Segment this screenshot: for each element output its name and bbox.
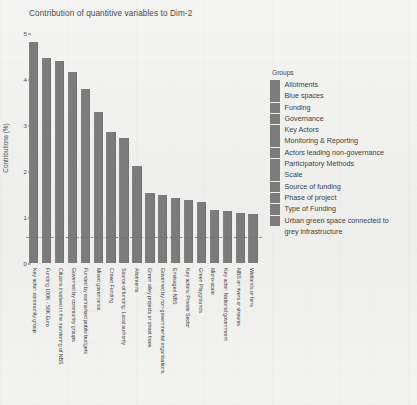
legend-item: Actors leading non-governance — [270, 148, 414, 159]
chart-title: Contribution of quantitive variables to … — [29, 9, 192, 18]
x-axis-label: Green alley projects or street trees — [147, 268, 153, 347]
bar-series — [29, 33, 258, 263]
legend-label: Source of funding — [285, 182, 341, 193]
x-axis-label-slot: Crowd Funding — [105, 266, 118, 405]
bar — [248, 214, 257, 263]
x-axis-label-slot: Citizens involved in the monitoring of N… — [54, 266, 67, 405]
x-axis-label-slot: Source of funding: Local authority — [118, 266, 131, 405]
legend-swatch — [270, 159, 280, 170]
legend-label: Phase of project — [285, 193, 337, 204]
legend-swatch — [270, 80, 280, 91]
x-axis-label: Mixed governance — [96, 268, 102, 310]
legend-swatch — [270, 103, 280, 114]
legend-label: Key Actors — [285, 125, 319, 136]
bar — [145, 193, 154, 263]
bar — [158, 195, 167, 263]
legend-item: Monitoring & Reporting — [270, 136, 414, 147]
legend-swatch — [270, 136, 280, 147]
legend-label-continuation: grey infrastructure — [270, 227, 414, 238]
x-axis-label: Key actor: National government — [223, 268, 229, 341]
legend-item: Type of Funding — [270, 204, 414, 215]
legend-swatch — [270, 114, 280, 125]
legend-swatch — [270, 193, 280, 204]
bar — [29, 42, 38, 263]
y-axis-tick: 2 — [24, 168, 27, 175]
y-axis-tick: 4 — [24, 76, 27, 83]
legend-swatch — [270, 182, 280, 193]
legend-swatch — [270, 170, 280, 181]
x-axis-label-slot: Green alley projects or street trees — [144, 266, 157, 405]
y-axis-label: Contributions (%) — [2, 123, 9, 172]
x-axis-label: Green Playgrounds — [198, 268, 204, 313]
x-axis-label-slot: Funded by earmarked public budgets — [80, 266, 93, 405]
bar — [171, 198, 180, 263]
legend-label: Type of Funding — [285, 204, 337, 215]
y-axis-tick: 1 — [24, 214, 27, 221]
legend-item: Phase of project — [270, 193, 414, 204]
legend-title: Groups — [272, 69, 414, 76]
legend-label: Governance — [285, 114, 324, 125]
x-axis-label-slot: Envisaged NBS — [169, 266, 182, 405]
x-axis-label-slot: Wetlands or fens — [245, 266, 258, 405]
bar — [55, 61, 64, 263]
y-axis: Contributions (%) 012345 — [0, 33, 29, 263]
legend-label: Participatory Methods — [285, 159, 355, 170]
x-axis-label: Micro-scale — [210, 268, 216, 295]
legend-items: AllotmentsBlue spacesFundingGovernanceKe… — [270, 80, 414, 238]
bar — [119, 138, 128, 263]
legend-label: Blue spaces — [285, 91, 324, 102]
x-axis-label-slot: Funding 100K - 50K Euro — [42, 266, 55, 405]
legend-swatch — [270, 216, 280, 227]
x-axis-label: Key actor: community group — [32, 268, 38, 333]
bar — [94, 112, 103, 263]
bar — [42, 58, 51, 263]
legend-label: Scale — [285, 170, 303, 181]
x-axis-label: Key actors: Private Sector — [185, 268, 191, 328]
x-axis-label-slot: Mixed governance — [93, 266, 106, 405]
legend-item: Allotments — [270, 80, 414, 91]
x-axis-label: Wetlands or fens — [249, 268, 255, 307]
x-axis-label: Envisaged NBS — [172, 268, 178, 304]
y-axis-tick: 5 — [24, 30, 27, 37]
legend-item: Urban green space connected to — [270, 216, 414, 227]
x-axis-label-slot: Governed by community groups — [67, 266, 80, 405]
legend-item: Scale — [270, 170, 414, 181]
x-axis-label-slot: Allotments — [131, 266, 144, 405]
x-axis-label: Allotments — [134, 268, 140, 292]
plot-area — [29, 33, 258, 263]
x-axis-label: Source of funding: Local authority — [121, 268, 127, 345]
x-axis-label: NBS on rivers or streams — [236, 268, 242, 326]
legend-swatch — [270, 148, 280, 159]
bar — [132, 166, 141, 263]
x-axis-label: Crowd Funding — [109, 268, 115, 303]
x-axis-label: Citizens involved in the monitoring of N… — [58, 268, 64, 365]
legend-item: Key Actors — [270, 125, 414, 136]
x-axis-label-slot: Green Playgrounds — [194, 266, 207, 405]
x-axis-label-slot: Governed by non-governmental organisatio… — [156, 266, 169, 405]
legend-label: Urban green space connected to — [285, 216, 389, 227]
contribution-bar-chart: Contribution of quantitive variables to … — [0, 0, 417, 405]
legend-label: Monitoring & Reporting — [285, 136, 359, 147]
legend-item: Blue spaces — [270, 91, 414, 102]
x-axis-label: Governed by non-governmental organisatio… — [160, 268, 166, 373]
legend-label: grey infrastructure — [285, 227, 343, 238]
legend-label: Funding — [285, 103, 311, 114]
bar — [106, 132, 115, 263]
y-axis-tick: 0 — [24, 260, 27, 267]
legend-swatch — [270, 91, 280, 102]
reference-line — [26, 237, 262, 238]
legend-item: Governance — [270, 114, 414, 125]
bar — [184, 200, 193, 263]
legend-item: Funding — [270, 103, 414, 114]
legend: Groups AllotmentsBlue spacesFundingGover… — [270, 69, 414, 238]
bar — [236, 213, 245, 263]
legend-swatch — [270, 204, 280, 215]
x-axis-label-slot: Micro-scale — [207, 266, 220, 405]
legend-label: Allotments — [285, 80, 319, 91]
bar — [68, 72, 77, 263]
y-axis-tick: 3 — [24, 122, 27, 129]
x-axis-label: Governed by community groups — [71, 268, 77, 342]
legend-label: Actors leading non-governance — [285, 148, 385, 159]
bar — [197, 202, 206, 263]
x-axis-label-slot: Key actor: community group — [29, 266, 42, 405]
